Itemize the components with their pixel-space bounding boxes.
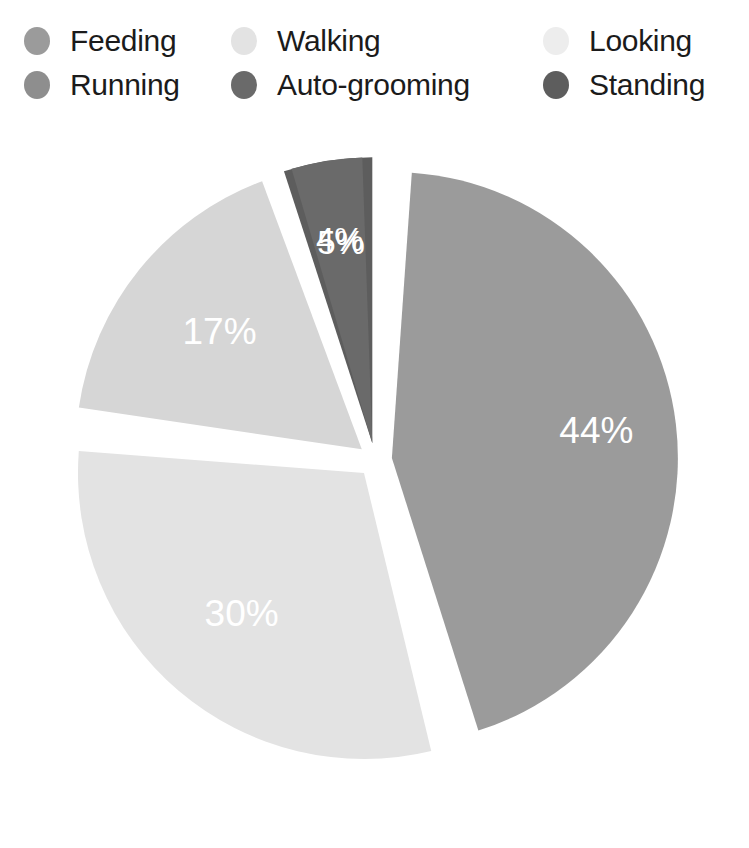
legend-label-walking: Walking — [277, 26, 381, 56]
pie-chart-svg: 5%44%30%17%4% — [0, 118, 749, 848]
pie-slice-feeding[interactable] — [392, 173, 678, 731]
pie-slice-label-looking: 17% — [183, 311, 257, 352]
legend-item-walking[interactable]: Walking — [231, 26, 381, 56]
legend-swatch-auto-grooming — [231, 71, 257, 99]
legend-label-feeding: Feeding — [70, 26, 176, 56]
legend-item-feeding[interactable]: Feeding — [24, 26, 176, 56]
legend-label-looking: Looking — [589, 26, 692, 56]
pie-slice-label-walking: 30% — [205, 593, 279, 634]
pie-slices — [78, 157, 678, 759]
chart-legend: Feeding Running Walking Auto-grooming Lo… — [0, 0, 749, 122]
legend-swatch-looking — [543, 27, 569, 55]
legend-item-running[interactable]: Running — [24, 70, 180, 100]
pie-chart: 5%44%30%17%4% — [0, 118, 749, 848]
legend-label-auto-grooming: Auto-grooming — [277, 70, 470, 100]
legend-item-standing[interactable]: Standing — [543, 70, 705, 100]
legend-label-running: Running — [70, 70, 180, 100]
legend-swatch-running — [24, 71, 50, 99]
legend-label-standing: Standing — [589, 70, 705, 100]
legend-item-auto-grooming[interactable]: Auto-grooming — [231, 70, 470, 100]
legend-swatch-walking — [231, 27, 257, 55]
pie-slice-label-auto-grooming: 4% — [316, 221, 364, 258]
legend-item-looking[interactable]: Looking — [543, 26, 692, 56]
legend-swatch-standing — [543, 71, 569, 99]
legend-swatch-feeding — [24, 27, 50, 55]
pie-slice-label-feeding: 44% — [559, 410, 633, 451]
